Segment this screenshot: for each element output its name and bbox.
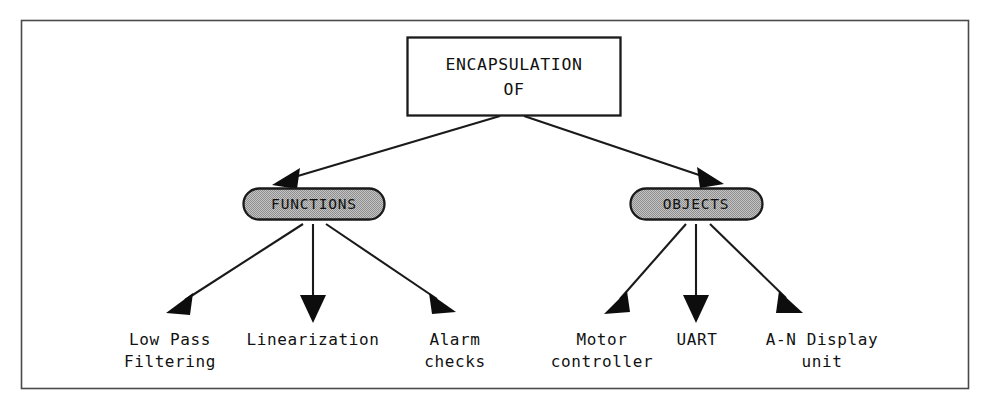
- node-functions[interactable]: FUNCTIONS: [244, 189, 385, 220]
- leaf-a-n-display-unit-line2: unit: [802, 352, 843, 371]
- root-box[interactable]: [408, 38, 621, 116]
- objects-label: OBJECTS: [663, 196, 730, 212]
- leaf-a-n-display-unit-line1: A-N Display: [766, 330, 879, 349]
- root-label-line2: OF: [503, 80, 524, 99]
- leaf-low-pass-filtering-line1: Low Pass: [129, 330, 211, 349]
- root-label-line1: ENCAPSULATION: [446, 55, 583, 74]
- functions-label: FUNCTIONS: [271, 196, 357, 212]
- leaf-uart[interactable]: UART: [677, 330, 718, 349]
- encapsulation-diagram-figure: ENCAPSULATION OF FUNCTIONS OBJECTS Low P…: [0, 0, 993, 403]
- leaf-alarm-checks-line2: checks: [424, 352, 485, 371]
- leaf-motor-controller-line2: controller: [551, 352, 653, 371]
- leaf-motor-controller-line1: Motor: [576, 330, 627, 349]
- leaf-linearization[interactable]: Linearization: [246, 330, 379, 349]
- node-root[interactable]: ENCAPSULATION OF: [408, 38, 621, 116]
- diagram-canvas: ENCAPSULATION OF FUNCTIONS OBJECTS Low P…: [0, 0, 993, 403]
- leaf-linearization-line1: Linearization: [246, 330, 379, 349]
- leaf-low-pass-filtering-line2: Filtering: [124, 352, 216, 371]
- node-objects[interactable]: OBJECTS: [631, 189, 763, 220]
- leaf-uart-line1: UART: [677, 330, 718, 349]
- leaf-alarm-checks-line1: Alarm: [429, 330, 480, 349]
